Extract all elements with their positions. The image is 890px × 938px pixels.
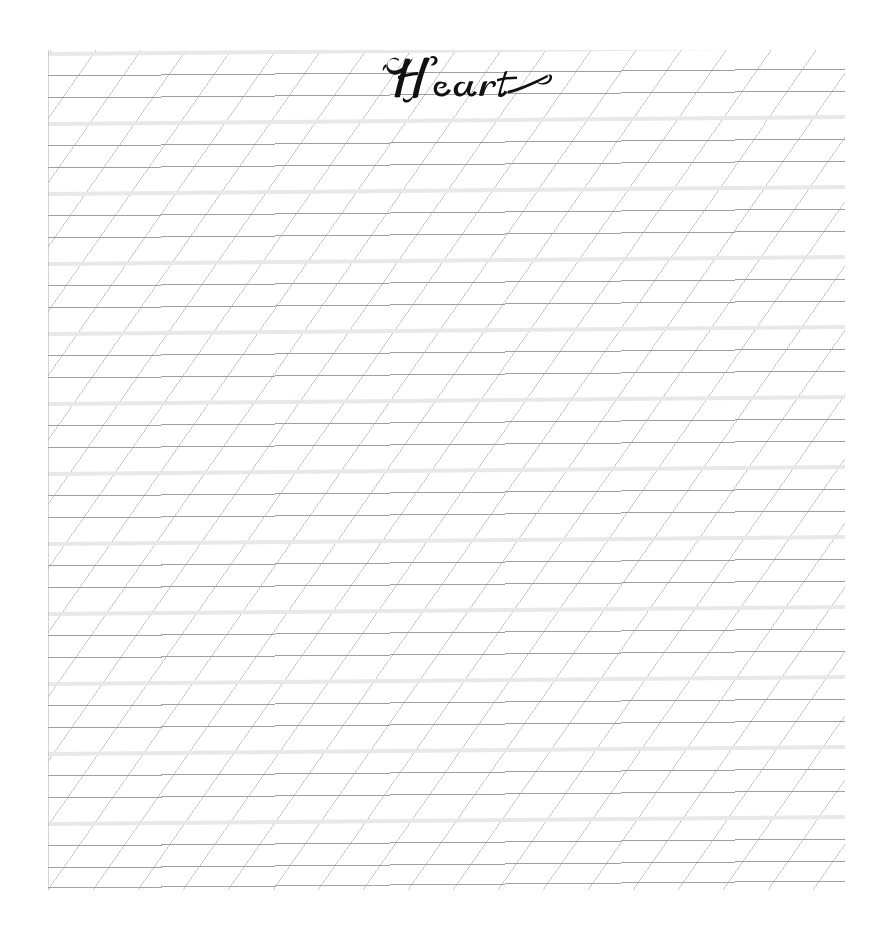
practice-sheet-page: Heart	[0, 0, 890, 938]
guideline-grid	[48, 50, 845, 890]
horizontal-rule-lines	[48, 50, 845, 868]
ruled-guideline-area	[48, 50, 845, 890]
